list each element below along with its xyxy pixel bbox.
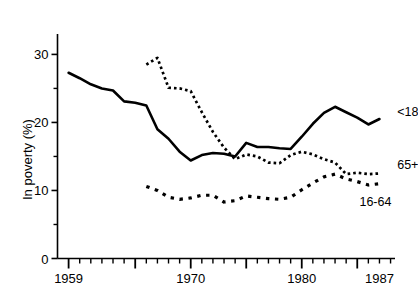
series-label-under-18: <18: [397, 105, 418, 119]
series-line--18: [69, 73, 380, 161]
x-tick-label-1980: 1980: [287, 271, 316, 286]
series-label-65-plus: 65+: [397, 158, 418, 172]
y-tick-label-10: 10: [34, 183, 48, 198]
series-line-65-: [146, 58, 379, 174]
x-tick-label-1987: 1987: [365, 271, 394, 286]
y-axis-title: In poverty (%): [20, 119, 35, 200]
y-tick-label-30: 30: [34, 47, 48, 62]
series-line-16-64: [146, 174, 379, 202]
series-label-16-64: 16-64: [359, 195, 391, 209]
y-tick-label-20: 20: [34, 115, 48, 130]
x-tick-label-1959: 1959: [54, 271, 83, 286]
x-tick-label-1970: 1970: [176, 271, 205, 286]
y-tick-label-0: 0: [41, 251, 48, 266]
